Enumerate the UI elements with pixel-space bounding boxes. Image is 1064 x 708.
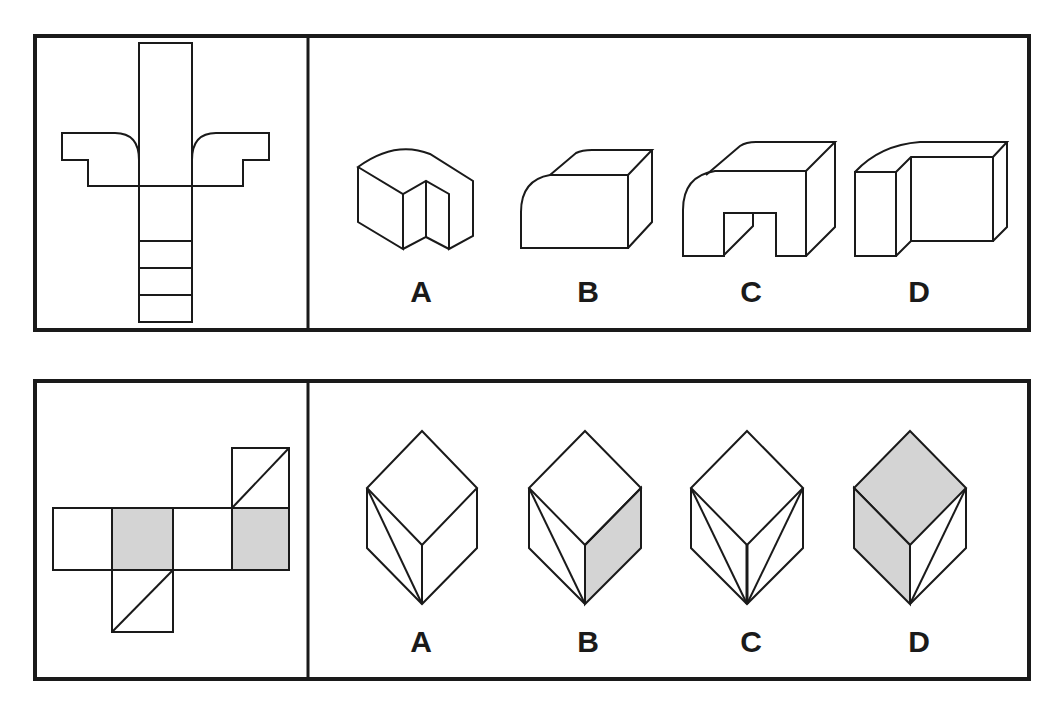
puzzle-2-net — [53, 448, 289, 632]
puzzle-1-labels: A B C D — [410, 275, 930, 308]
puzzle-2-option-b-cube — [529, 431, 641, 604]
puzzle-2-option-d-cube — [854, 431, 966, 604]
puzzle-1-option-a-shape — [358, 149, 473, 249]
puzzle-2-option-b-label[interactable]: B — [577, 625, 599, 658]
puzzle-1-option-c-label[interactable]: C — [740, 275, 762, 308]
puzzle-1-option-d-shape — [855, 142, 1007, 256]
puzzle-2-option-c-cube — [691, 431, 803, 604]
puzzle-1-option-b-label[interactable]: B — [577, 275, 599, 308]
puzzle-1 — [35, 36, 1029, 330]
puzzle-2-option-a-cube — [367, 431, 477, 604]
puzzle-1-option-c-shape — [683, 142, 835, 256]
puzzle-1-net — [62, 43, 269, 322]
puzzle-2 — [35, 381, 1029, 679]
puzzle-2-option-a-label[interactable]: A — [410, 625, 432, 658]
puzzle-1-option-a-label[interactable]: A — [410, 275, 432, 308]
puzzle-1-option-b-shape — [521, 150, 652, 248]
puzzle-2-option-d-label[interactable]: D — [908, 625, 930, 658]
puzzle-2-labels: A B C D — [410, 625, 930, 658]
puzzle-canvas: A B C D A B C D — [0, 0, 1064, 708]
puzzle-2-option-c-label[interactable]: C — [740, 625, 762, 658]
puzzle-1-option-d-label[interactable]: D — [908, 275, 930, 308]
